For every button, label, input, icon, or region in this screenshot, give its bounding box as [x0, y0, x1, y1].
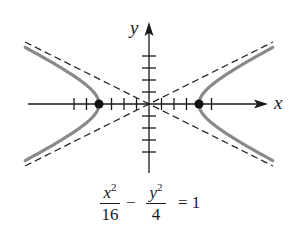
x-axis-label: x: [274, 93, 282, 112]
numerator-exponent: 2: [157, 181, 163, 193]
vertex-right: [195, 100, 204, 109]
numerator-var: x: [103, 183, 111, 202]
equals-one: = 1: [178, 194, 200, 211]
y-axis-label: y: [130, 18, 138, 37]
minus-sign: −: [126, 194, 136, 211]
vertex-left: [95, 100, 104, 109]
fraction-bar: [146, 203, 166, 204]
fraction-bar: [100, 203, 120, 204]
denominator: 16: [100, 206, 120, 223]
fraction-y2-over-4: y2 4: [146, 184, 166, 223]
numerator-exponent: 2: [111, 181, 117, 193]
denominator: 4: [146, 206, 166, 223]
fraction-x2-over-16: x2 16: [100, 184, 120, 223]
numerator-var: y: [149, 183, 157, 202]
